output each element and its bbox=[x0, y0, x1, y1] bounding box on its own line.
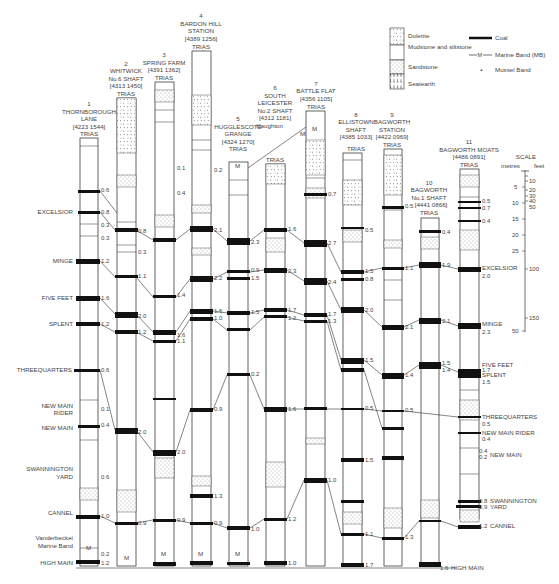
svg-text:4: 4 bbox=[199, 12, 203, 19]
svg-text:GRANGE: GRANGE bbox=[225, 130, 252, 137]
svg-text:0.6: 0.6 bbox=[101, 187, 110, 193]
svg-text:YARD: YARD bbox=[490, 503, 507, 510]
svg-text:SWANNINGTON: SWANNINGTON bbox=[26, 465, 73, 472]
svg-text:1.3: 1.3 bbox=[328, 318, 337, 324]
svg-text:No.2 SHAFT: No.2 SHAFT bbox=[257, 107, 292, 114]
svg-text:0.1: 0.1 bbox=[101, 406, 110, 412]
svg-text:EXCELSIOR: EXCELSIOR bbox=[38, 208, 74, 215]
svg-text:SOUTH: SOUTH bbox=[264, 92, 286, 99]
svg-text:0.6: 0.6 bbox=[101, 474, 110, 480]
svg-text:2.7: 2.7 bbox=[328, 240, 337, 246]
svg-text:0.5: 0.5 bbox=[365, 227, 374, 233]
svg-text:1.6: 1.6 bbox=[214, 308, 223, 314]
svg-text:1.1: 1.1 bbox=[177, 338, 186, 344]
svg-text:THREEQUARTERS: THREEQUARTERS bbox=[482, 413, 537, 420]
svg-text:1.5: 1.5 bbox=[482, 379, 491, 385]
svg-text:2.4: 2.4 bbox=[328, 279, 337, 285]
svg-text:1.1: 1.1 bbox=[138, 273, 147, 279]
svg-text:2.0: 2.0 bbox=[177, 449, 186, 455]
svg-text:6: 6 bbox=[273, 84, 277, 91]
svg-text:No.6 SHAFT: No.6 SHAFT bbox=[108, 75, 143, 82]
svg-text:1.5: 1.5 bbox=[365, 357, 374, 363]
svg-text:0.3: 0.3 bbox=[138, 249, 147, 255]
svg-text:[4385 1033]: [4385 1033] bbox=[340, 133, 373, 140]
svg-text:[4356 1105]: [4356 1105] bbox=[300, 95, 333, 102]
svg-text:TRIAS: TRIAS bbox=[117, 90, 135, 97]
svg-text:11: 11 bbox=[466, 138, 473, 145]
svg-text:HIGH MAIN: HIGH MAIN bbox=[40, 559, 73, 566]
svg-text:1.0: 1.0 bbox=[328, 477, 337, 483]
svg-text:0.9: 0.9 bbox=[214, 520, 223, 526]
svg-text:ELLISTOWN: ELLISTOWN bbox=[338, 118, 374, 125]
svg-text:SPLENT: SPLENT bbox=[482, 371, 506, 378]
marine-band-icon: M bbox=[86, 544, 91, 551]
svg-text:0.4: 0.4 bbox=[177, 190, 186, 196]
svg-text:10: 10 bbox=[512, 200, 519, 206]
svg-text:FIVE FEET: FIVE FEET bbox=[42, 294, 74, 301]
svg-text:25: 25 bbox=[512, 248, 519, 254]
scale-title: SCALE bbox=[516, 153, 536, 160]
marine-band-icon: M bbox=[161, 550, 166, 557]
svg-text:0.5: 0.5 bbox=[405, 203, 414, 209]
legend-marine-band: Marine Band (MB) bbox=[495, 51, 545, 58]
svg-text:TRIAS: TRIAS bbox=[266, 156, 284, 163]
svg-text:1.4: 1.4 bbox=[442, 367, 451, 373]
svg-text:STATION: STATION bbox=[188, 27, 214, 34]
svg-text:2: 2 bbox=[124, 60, 128, 67]
svg-text:[4391 1362]: [4391 1362] bbox=[148, 66, 181, 73]
svg-text:Vanderbeckei: Vanderbeckei bbox=[36, 534, 73, 541]
scale-bar: SCALE metres feet 5 10 15 20 25 50 10 20… bbox=[501, 153, 545, 334]
svg-text:TRIAS: TRIAS bbox=[420, 209, 438, 216]
legend-coal: Coal bbox=[495, 34, 508, 41]
svg-text:8: 8 bbox=[354, 111, 358, 118]
svg-text:1.2: 1.2 bbox=[101, 560, 110, 566]
svg-text:THORNBOROUGH: THORNBOROUGH bbox=[62, 108, 116, 115]
svg-text:TRIAS: TRIAS bbox=[155, 74, 173, 81]
svg-text:1.7: 1.7 bbox=[288, 307, 297, 313]
svg-text:0.5: 0.5 bbox=[482, 198, 491, 204]
correlation-diagram: Dolerite Mudstone and siltstone Sandston… bbox=[0, 0, 559, 584]
svg-text:1.6: 1.6 bbox=[101, 295, 110, 301]
svg-text:BAGWORTH: BAGWORTH bbox=[411, 186, 447, 193]
svg-text:NEW MAIN: NEW MAIN bbox=[41, 402, 73, 409]
svg-text:HUGGLESCOTE: HUGGLESCOTE bbox=[214, 123, 261, 130]
seam-labels-right: EXCELSIOR2.0 MINGE2.3 FIVE FEET1.7 SPLEN… bbox=[440, 264, 537, 571]
svg-text:1.3: 1.3 bbox=[214, 493, 223, 499]
svg-text:50: 50 bbox=[512, 328, 519, 334]
haughton-label: Haughton bbox=[256, 122, 283, 129]
marine-band-icon: M bbox=[235, 550, 240, 557]
svg-text:0.7: 0.7 bbox=[482, 205, 491, 211]
legend-mussel-band: Mussel Band bbox=[495, 66, 531, 73]
svg-text:[4223 1544]: [4223 1544] bbox=[73, 123, 106, 130]
svg-text:1.0: 1.0 bbox=[251, 526, 260, 532]
marine-band-icon: M bbox=[198, 550, 203, 557]
svg-text:15: 15 bbox=[512, 216, 519, 222]
svg-text:STATION: STATION bbox=[379, 126, 405, 133]
svg-text:1.7: 1.7 bbox=[365, 562, 374, 568]
svg-text:0.2: 0.2 bbox=[479, 454, 488, 460]
svg-text:2.3: 2.3 bbox=[482, 329, 491, 335]
svg-text:1.4: 1.4 bbox=[177, 292, 186, 298]
svg-text:1.5: 1.5 bbox=[365, 457, 374, 463]
svg-text:LEICESTER: LEICESTER bbox=[258, 99, 293, 106]
svg-text:TRIAS: TRIAS bbox=[229, 145, 247, 152]
svg-text:9: 9 bbox=[390, 111, 394, 118]
svg-text:TRIAS: TRIAS bbox=[347, 145, 365, 152]
scale-metres-label: metres bbox=[501, 162, 520, 169]
svg-text:1: 1 bbox=[87, 100, 91, 107]
svg-text:BAGWORTH MOATS: BAGWORTH MOATS bbox=[439, 146, 499, 153]
svg-text:[4324 1270]: [4324 1270] bbox=[222, 138, 255, 145]
svg-text:1.5: 1.5 bbox=[442, 360, 451, 366]
svg-text:10: 10 bbox=[529, 178, 536, 184]
svg-text:0.2: 0.2 bbox=[251, 371, 260, 377]
svg-text:1.4: 1.4 bbox=[405, 372, 414, 378]
svg-text:NEW MAIN: NEW MAIN bbox=[41, 424, 73, 431]
svg-text:2.0: 2.0 bbox=[365, 307, 374, 313]
svg-text:2.0: 2.0 bbox=[482, 273, 491, 279]
svg-text:0.9: 0.9 bbox=[177, 517, 186, 523]
svg-text:1.1: 1.1 bbox=[365, 531, 374, 537]
svg-text:0.3: 0.3 bbox=[101, 235, 110, 241]
svg-text:50: 50 bbox=[529, 204, 536, 210]
svg-text:Marine Band: Marine Band bbox=[38, 542, 74, 549]
svg-text:2.1: 2.1 bbox=[214, 227, 223, 233]
